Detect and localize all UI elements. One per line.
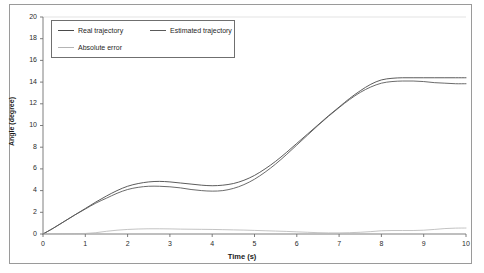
legend-swatch-icon (58, 47, 74, 48)
y-axis-title: Angle (degree) (8, 87, 15, 157)
legend-swatch-icon (150, 30, 166, 31)
legend-item-absolute-error: Absolute error (58, 44, 122, 51)
x-tick-label: 2 (114, 240, 142, 247)
chart-legend: Real trajectory Estimated trajectory Abs… (51, 20, 235, 58)
x-tick-label: 8 (367, 240, 395, 247)
y-tick-label: 0 (7, 230, 37, 237)
series-line (43, 228, 466, 234)
x-tick-label: 9 (410, 240, 438, 247)
x-tick-label: 1 (71, 240, 99, 247)
legend-item-estimated-trajectory: Estimated trajectory (150, 27, 232, 34)
legend-item-real-trajectory: Real trajectory (58, 27, 123, 34)
y-tick-label: 20 (7, 13, 37, 20)
x-tick-label: 6 (283, 240, 311, 247)
x-tick-label: 4 (198, 240, 226, 247)
y-tick-label: 2 (7, 208, 37, 215)
x-tick-label: 5 (241, 240, 269, 247)
chart-figure: 02468101214161820 012345678910 Angle (de… (0, 0, 484, 273)
series-line (43, 81, 466, 234)
x-tick-label: 3 (156, 240, 184, 247)
data-series-group (43, 78, 466, 234)
x-tick-label: 10 (452, 240, 480, 247)
legend-swatch-icon (58, 30, 74, 31)
y-tick-label: 6 (7, 164, 37, 171)
y-tick-label: 18 (7, 34, 37, 41)
legend-label: Absolute error (78, 44, 122, 51)
y-tick-label: 4 (7, 186, 37, 193)
series-line (43, 78, 466, 234)
y-tick-label: 14 (7, 78, 37, 85)
x-tick-label: 0 (29, 240, 57, 247)
legend-label: Estimated trajectory (170, 27, 232, 34)
x-axis-title: Time (s) (0, 252, 484, 261)
y-tick-label: 16 (7, 56, 37, 63)
legend-label: Real trajectory (78, 27, 123, 34)
x-tick-label: 7 (325, 240, 353, 247)
